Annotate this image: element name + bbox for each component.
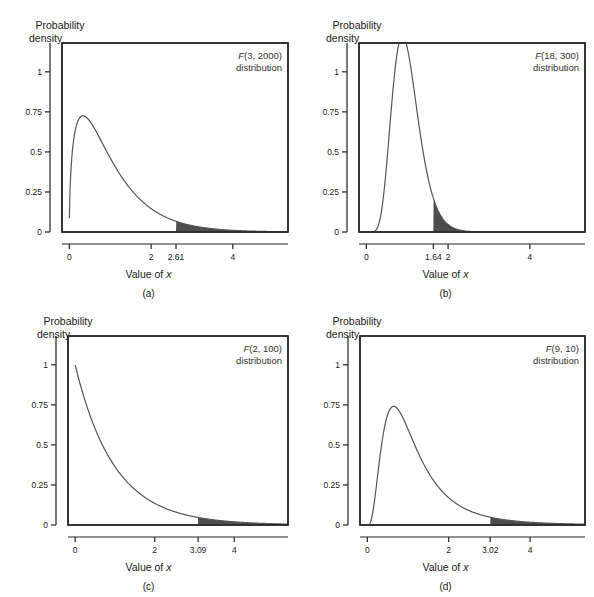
x-tick-label-c-4: 4 xyxy=(232,545,237,555)
x-tick-label-b-2: 2 xyxy=(446,252,451,262)
y-tick-label-b-0.75: 0.75 xyxy=(297,107,339,117)
x-axis-title-c: Value of x xyxy=(0,561,297,573)
x-tick-label-c-2: 2 xyxy=(152,545,157,555)
x-tick-label-d-4: 4 xyxy=(528,545,533,555)
y-axis-title-line1-a: Probability xyxy=(36,19,85,31)
x-tick-label-a-4: 4 xyxy=(230,252,235,262)
distribution-params-b: (18, 300) xyxy=(541,50,579,61)
x-tick-label-d-2: 2 xyxy=(446,545,451,555)
y-axis-title-line1-b: Probability xyxy=(333,19,382,31)
y-tick-label-d-0: 0 xyxy=(297,520,340,530)
distribution-word-c: distribution xyxy=(236,355,282,366)
x-tick-label-a-2: 2 xyxy=(149,252,154,262)
y-axis-title-c: Probabilitydensity xyxy=(26,302,93,367)
x-tick-label-b-1.64: 1.64 xyxy=(425,252,442,262)
y-axis-title-line1-c: Probability xyxy=(44,315,93,327)
distribution-word-a: distribution xyxy=(236,62,282,73)
distribution-label-a: F(3, 2000) distribution xyxy=(236,50,282,74)
y-tick-label-d-1: 1 xyxy=(297,360,340,370)
panel-b: Probabilitydensity F(18, 300) distributi… xyxy=(297,0,594,298)
x-tick-label-d-3.02: 3.02 xyxy=(482,545,499,555)
f-distribution-figure: Probabilitydensity F(3, 2000) distributi… xyxy=(0,0,594,597)
x-axis-title-var-a: x xyxy=(166,268,171,280)
x-axis-title-text-a: Value of xyxy=(126,268,167,280)
x-tick-label-d-0: 0 xyxy=(365,545,370,555)
x-axis-title-var-b: x xyxy=(463,268,468,280)
y-axis-title-a: Probabilitydensity xyxy=(18,6,85,71)
y-tick-label-a-1: 1 xyxy=(0,67,42,77)
panel-letter-c: (c) xyxy=(0,581,297,592)
y-axis-title-line1-d: Probability xyxy=(333,315,382,327)
y-tick-label-c-0.75: 0.75 xyxy=(0,400,48,410)
y-tick-label-c-0.25: 0.25 xyxy=(0,480,48,490)
y-axis-title-b: Probabilitydensity xyxy=(315,6,382,71)
y-axis-title-line2-b: density xyxy=(315,32,382,45)
y-tick-label-d-0.75: 0.75 xyxy=(297,400,340,410)
distribution-params-c: (2, 100) xyxy=(249,343,282,354)
y-tick-label-d-0.25: 0.25 xyxy=(297,480,340,490)
x-axis-title-var-c: x xyxy=(166,561,171,573)
y-tick-label-a-0: 0 xyxy=(0,227,42,237)
x-tick-label-b-0: 0 xyxy=(364,252,369,262)
x-axis-title-d: Value of x xyxy=(297,561,594,573)
panel-c: Probabilitydensity F(2, 100) distributio… xyxy=(0,298,297,597)
y-axis-title-line2-d: density xyxy=(315,328,382,341)
x-tick-label-a-0: 0 xyxy=(67,252,72,262)
y-tick-label-b-0.5: 0.5 xyxy=(297,147,339,157)
y-tick-label-a-0.25: 0.25 xyxy=(0,187,42,197)
y-tick-label-b-0.25: 0.25 xyxy=(297,187,339,197)
y-axis-title-d: Probabilitydensity xyxy=(315,302,382,367)
y-tick-label-a-0.5: 0.5 xyxy=(0,147,42,157)
y-tick-label-c-1: 1 xyxy=(0,360,48,370)
x-axis-title-text-b: Value of xyxy=(423,268,464,280)
x-axis-title-text-c: Value of xyxy=(126,561,167,573)
x-tick-label-a-2.61: 2.61 xyxy=(168,252,185,262)
x-axis-title-b: Value of x xyxy=(297,268,594,280)
distribution-label-d: F(9, 10) distribution xyxy=(533,343,579,367)
density-curve-c xyxy=(75,365,288,524)
panel-letter-d: (d) xyxy=(297,581,594,592)
distribution-label-b: F(18, 300) distribution xyxy=(533,50,579,74)
shaded-tail-region-b xyxy=(433,199,585,232)
x-axis-title-var-d: x xyxy=(463,561,468,573)
distribution-params-a: (3, 2000) xyxy=(244,50,282,61)
y-tick-label-c-0.5: 0.5 xyxy=(0,440,48,450)
y-tick-label-a-0.75: 0.75 xyxy=(0,107,42,117)
y-axis-title-line2-c: density xyxy=(26,328,93,341)
x-axis-title-text-d: Value of xyxy=(423,561,464,573)
y-axis-title-line2-a: density xyxy=(18,32,85,45)
distribution-label-c: F(2, 100) distribution xyxy=(236,343,282,367)
y-tick-label-b-1: 1 xyxy=(297,67,339,77)
x-tick-label-c-3.09: 3.09 xyxy=(190,545,207,555)
x-tick-label-c-0: 0 xyxy=(73,545,78,555)
density-curve-a xyxy=(69,116,288,232)
distribution-word-d: distribution xyxy=(533,355,579,366)
x-tick-label-b-4: 4 xyxy=(527,252,532,262)
distribution-word-b: distribution xyxy=(533,62,579,73)
x-axis-title-a: Value of x xyxy=(0,268,297,280)
y-tick-label-d-0.5: 0.5 xyxy=(297,440,340,450)
distribution-params-d: (9, 10) xyxy=(552,343,579,354)
y-tick-label-b-0: 0 xyxy=(297,227,339,237)
y-tick-label-c-0: 0 xyxy=(0,520,48,530)
density-curve-d xyxy=(367,406,585,525)
panel-a: Probabilitydensity F(3, 2000) distributi… xyxy=(0,0,297,298)
panel-d: Probabilitydensity F(9, 10) distribution… xyxy=(297,298,594,597)
